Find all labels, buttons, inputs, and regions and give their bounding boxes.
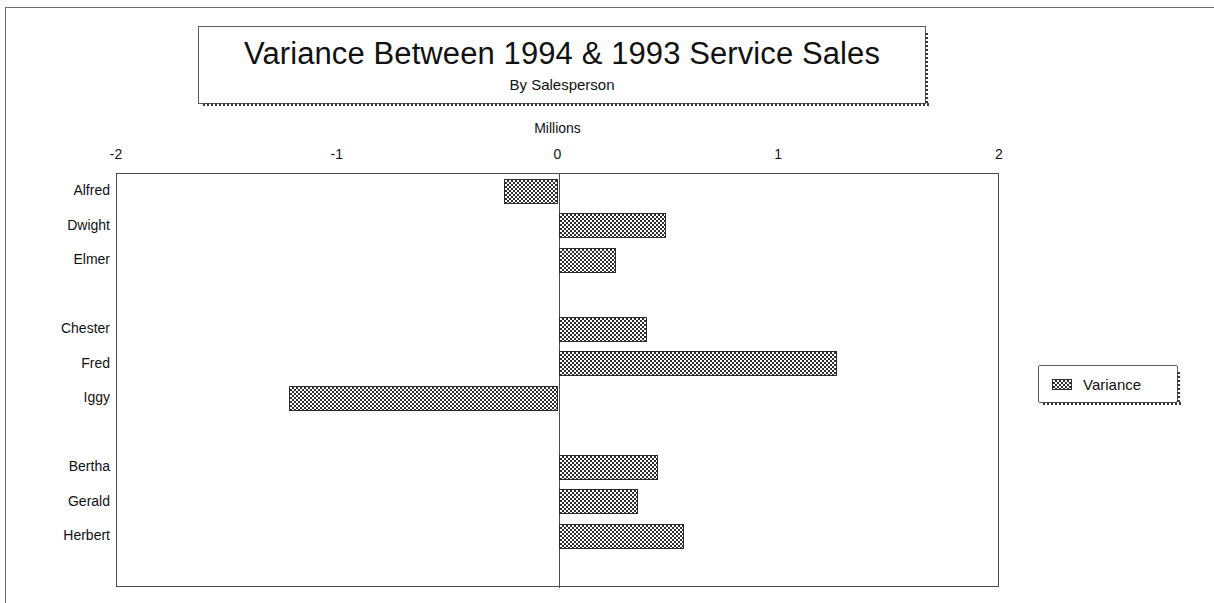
bar — [559, 351, 837, 376]
y-tick-label: Chester — [0, 320, 110, 336]
y-tick-label: Alfred — [0, 182, 110, 198]
y-axis-category-labels: AlfredDwightElmerChesterFredIggyBerthaGe… — [0, 0, 110, 603]
y-tick-label: Herbert — [0, 527, 110, 543]
page-title: Variance Between 1994 & 1993 Service Sal… — [199, 33, 925, 75]
y-tick-label: Elmer — [0, 251, 110, 267]
legend-item-label: Variance — [1083, 376, 1141, 393]
plot-area — [116, 173, 999, 587]
chart-title-box: Variance Between 1994 & 1993 Service Sal… — [198, 26, 926, 104]
chart-subtitle: By Salesperson — [199, 75, 925, 95]
x-axis-title: Millions — [0, 120, 1115, 136]
bar — [559, 455, 658, 480]
y-tick-label: Gerald — [0, 493, 110, 509]
y-tick-label: Dwight — [0, 217, 110, 233]
bar — [559, 248, 616, 273]
x-tick-label: 0 — [554, 146, 562, 162]
y-tick-label: Bertha — [0, 458, 110, 474]
bar — [559, 489, 638, 514]
hatch-pattern-swatch-icon — [1052, 379, 1072, 390]
y-tick-label: Fred — [0, 355, 110, 371]
x-tick-label: -1 — [331, 146, 343, 162]
x-tick-label: -2 — [110, 146, 122, 162]
bar — [504, 179, 558, 204]
y-tick-label: Iggy — [0, 389, 110, 405]
bar — [559, 317, 647, 342]
chart-legend[interactable]: Variance — [1038, 365, 1178, 403]
bar — [559, 524, 685, 549]
x-tick-label: 1 — [774, 146, 782, 162]
bar — [289, 386, 558, 411]
x-tick-label: 2 — [995, 146, 1003, 162]
bar — [559, 213, 666, 238]
